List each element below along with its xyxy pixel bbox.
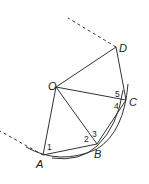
point-label-a: A	[35, 158, 43, 170]
angle-label-3: 3	[92, 129, 97, 139]
inner-arc	[52, 90, 123, 159]
geometry-diagram: O D C B A 1 2 3 4 5	[0, 0, 149, 184]
angle-label-5: 5	[115, 89, 120, 99]
diagram-svg: O D C B A 1 2 3 4 5	[0, 0, 149, 184]
point-label-d: D	[119, 42, 127, 54]
angle-label-4: 4	[114, 101, 119, 111]
dashed-ray-a	[0, 131, 43, 155]
segment-od	[56, 47, 116, 87]
angle-label-2: 2	[84, 134, 89, 144]
segment-bc	[97, 100, 126, 144]
point-label-b: B	[94, 148, 101, 160]
point-label-o: O	[48, 80, 57, 92]
point-label-c: C	[129, 96, 137, 108]
segment-ob	[56, 87, 97, 144]
angle-label-1: 1	[47, 142, 52, 152]
dashed-ray-d	[68, 18, 116, 47]
